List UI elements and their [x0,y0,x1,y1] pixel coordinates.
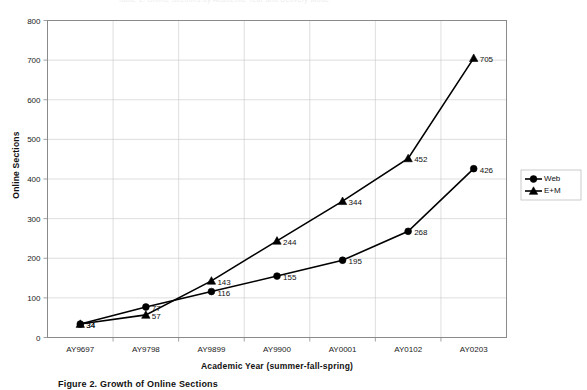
x-axis-ticks-group: AY9697AY9798AY9899AY9900AY0001AY0102AY02… [66,338,488,354]
triangle-marker [338,197,346,205]
y-tick-label: 0 [36,334,41,343]
series-line-web [80,169,473,324]
data-point-label: 143 [217,278,231,287]
circle-marker [208,288,215,295]
x-axis-title: Academic Year (summer-fall-spring) [47,361,507,371]
legend-label-eplusm: E+M [544,186,561,195]
data-series-group [76,54,478,327]
data-point-label: 705 [480,55,494,64]
data-point-label: 34 [86,321,95,330]
y-tick-label: 600 [27,96,41,105]
data-point-label: 452 [414,155,428,164]
x-tick-label: AY9899 [197,345,225,354]
y-tick-label: 200 [27,254,41,263]
data-point-label: 195 [349,257,363,266]
figure-caption: Figure 2. Growth of Online Sections [58,379,218,389]
x-tick-label: AY9697 [66,345,94,354]
y-axis-title: Online Sections [11,105,21,225]
series-line-eplusm [80,58,473,324]
circle-marker [142,304,149,311]
legend-label-web: Web [544,174,561,183]
top-cutoff-artifact: Table 1. Online Sections by Academic Yea… [0,0,587,8]
triangle-marker [207,277,215,285]
data-point-label: 426 [480,166,494,175]
circle-marker [339,257,346,264]
x-tick-label: AY9798 [132,345,160,354]
data-point-label: 57 [152,312,161,321]
circle-marker [530,176,537,183]
y-axis-ticks-group: 0100200300400500600700800 [27,17,47,343]
data-point-label: 344 [349,198,363,207]
y-tick-label: 800 [27,17,41,26]
data-point-labels-group: 34771161551952684263457143244344452705 [86,55,493,330]
top-artifact-text: Table 1. Online Sections by Academic Yea… [118,0,329,3]
triangle-marker [273,237,281,245]
line-chart-plot: 0100200300400500600700800 AY9697AY9798AY… [0,0,587,390]
circle-marker [274,273,281,280]
x-tick-label: AY0102 [394,345,422,354]
data-point-label: 155 [283,273,297,282]
y-tick-label: 700 [27,56,41,65]
circle-marker [470,165,477,172]
triangle-marker [142,311,150,319]
figure-container: Table 1. Online Sections by Academic Yea… [0,0,587,390]
circle-marker [405,228,412,235]
data-point-label: 116 [217,289,230,298]
y-tick-label: 100 [27,294,41,303]
y-tick-label: 400 [27,175,41,184]
x-tick-label: AY0203 [460,345,488,354]
y-tick-label: 500 [27,135,41,144]
data-point-label: 244 [283,238,297,247]
chart-legend: WebE+M [521,170,581,200]
x-tick-label: AY9900 [263,345,291,354]
y-tick-label: 300 [27,215,41,224]
x-tick-label: AY0001 [329,345,357,354]
gridlines-group [48,21,507,338]
data-point-label: 268 [414,228,428,237]
triangle-marker [470,54,478,62]
